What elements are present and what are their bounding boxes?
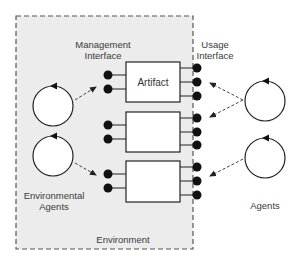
management-port bbox=[104, 135, 113, 144]
label-line: Environmental bbox=[18, 190, 90, 201]
usage-port bbox=[193, 128, 202, 137]
management-port bbox=[104, 71, 113, 80]
usage-interface-label: Usage Interface bbox=[193, 39, 237, 61]
usage-port bbox=[193, 177, 202, 186]
environment-label: Environment bbox=[90, 234, 156, 245]
label-line: Usage bbox=[193, 39, 237, 50]
management-port bbox=[104, 170, 113, 179]
usage-port bbox=[193, 114, 202, 123]
usage-port bbox=[193, 163, 202, 172]
agent-1 bbox=[245, 78, 285, 122]
management-port bbox=[104, 121, 113, 130]
label-line: Agents bbox=[18, 201, 90, 212]
diagram-canvas: Artifact bbox=[0, 0, 299, 265]
usage-port bbox=[193, 64, 202, 73]
management-interface-label: Management Interface bbox=[73, 39, 133, 61]
agent-2 bbox=[245, 135, 285, 179]
label-line: Interface bbox=[73, 50, 133, 61]
label-line: Interface bbox=[193, 50, 237, 61]
artifact-label: Artifact bbox=[137, 77, 168, 88]
management-port bbox=[104, 85, 113, 94]
usage-port bbox=[193, 141, 202, 150]
agents-label: Agents bbox=[240, 200, 290, 211]
usage-port bbox=[193, 78, 202, 87]
management-port bbox=[104, 184, 113, 193]
environmental-agents-label: Environmental Agents bbox=[18, 190, 90, 212]
usage-port bbox=[193, 92, 202, 101]
label-line: Management bbox=[73, 39, 133, 50]
usage-port bbox=[193, 191, 202, 200]
